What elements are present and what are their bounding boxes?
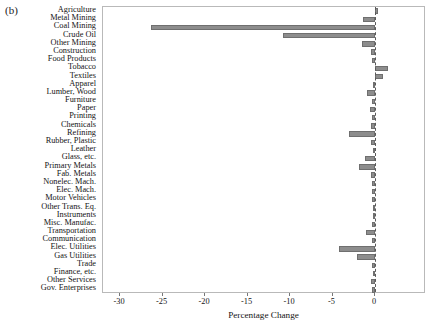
bar: [359, 164, 375, 169]
x-tick-mark: [374, 293, 375, 296]
category-axis-labels: AgricultureMetal MiningCoal MiningCrude …: [0, 6, 99, 293]
bar: [367, 90, 375, 95]
x-tick-mark: [289, 293, 290, 296]
x-tick-label: -25: [156, 297, 167, 306]
x-tick-label: -5: [328, 297, 335, 306]
bar: [151, 25, 375, 30]
x-tick-mark: [119, 293, 120, 296]
bar: [283, 33, 375, 38]
bar: [362, 41, 375, 46]
category-label: Gov. Enterprises: [0, 284, 99, 292]
x-tick-label: -20: [198, 297, 209, 306]
bar: [357, 254, 375, 259]
bar: [349, 131, 375, 136]
x-tick-label: 0: [372, 297, 376, 306]
x-axis-title: Percentage Change: [102, 310, 425, 320]
x-tick-mark: [204, 293, 205, 296]
bar: [365, 156, 375, 161]
x-tick-label: -30: [113, 297, 124, 306]
plot-area: [102, 6, 425, 293]
x-tick-mark: [247, 293, 248, 296]
zero-reference-line: [375, 7, 377, 292]
x-tick-mark: [162, 293, 163, 296]
bar: [363, 17, 375, 22]
bar: [339, 246, 375, 251]
figure-panel-b: (b) AgricultureMetal MiningCoal MiningCr…: [0, 0, 433, 328]
x-tick-mark: [332, 293, 333, 296]
x-tick-label: -10: [283, 297, 294, 306]
x-tick-label: -15: [241, 297, 252, 306]
bar: [366, 230, 375, 235]
